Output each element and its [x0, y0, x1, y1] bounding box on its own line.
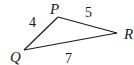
triangle-diagram: P Q R 4 5 7 [0, 0, 134, 65]
vertex-label-p: P [49, 1, 59, 17]
side-length-pr: 5 [85, 5, 92, 20]
side-qr [24, 33, 117, 50]
vertex-label-r: R [123, 26, 133, 42]
side-length-qr: 7 [65, 51, 72, 65]
vertex-label-q: Q [10, 49, 21, 65]
side-length-qp: 4 [29, 15, 36, 30]
